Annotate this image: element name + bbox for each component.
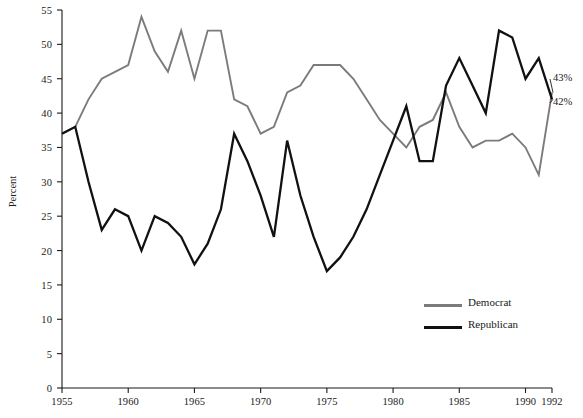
x-axis-tick-label: 1955 <box>51 396 72 407</box>
legend-item-democrat: Democrat <box>420 296 550 318</box>
x-axis-tick-label: 1975 <box>316 396 337 407</box>
y-axis-tick-label: 50 <box>20 39 52 50</box>
y-axis-tick-label: 5 <box>20 348 52 359</box>
chart-series <box>62 17 552 271</box>
legend-label-republican: Republican <box>468 318 518 330</box>
y-axis-tick-label: 25 <box>20 211 52 222</box>
x-axis-tick-label: 1980 <box>382 396 403 407</box>
y-axis-tick-label: 10 <box>20 314 52 325</box>
annotation-republican-final-value: 42% <box>553 96 572 107</box>
legend-label-democrat: Democrat <box>468 296 511 308</box>
y-axis-tick-label: 35 <box>20 142 52 153</box>
y-axis-tick-label: 0 <box>20 383 52 394</box>
x-axis-tick-label: 1970 <box>250 396 271 407</box>
x-axis-tick-label: 1960 <box>118 396 139 407</box>
chart-figure: Percent 0510152025303540455055 195519601… <box>0 0 583 418</box>
y-axis-tick-label: 55 <box>20 5 52 16</box>
y-axis-tick-label: 40 <box>20 108 52 119</box>
x-axis-tick-label: 1992 <box>541 396 562 407</box>
chart-plot-area <box>0 0 583 418</box>
y-axis-label: Percent <box>7 162 18 222</box>
series-line-republican <box>62 31 552 272</box>
y-axis-tick-label: 45 <box>20 73 52 84</box>
legend-swatch-republican <box>424 326 462 329</box>
y-axis-tick-label: 20 <box>20 245 52 256</box>
y-axis-tick-label: 15 <box>20 279 52 290</box>
legend-item-republican: Republican <box>420 318 550 340</box>
x-axis-tick-label: 1990 <box>515 396 536 407</box>
y-axis-tick-label: 30 <box>20 176 52 187</box>
legend-swatch-democrat <box>424 304 462 307</box>
chart-legend: Democrat Republican <box>420 296 550 340</box>
x-axis-tick-label: 1965 <box>184 396 205 407</box>
annotation-democrat-final-value: 43% <box>553 72 572 83</box>
x-axis-tick-label: 1985 <box>449 396 470 407</box>
